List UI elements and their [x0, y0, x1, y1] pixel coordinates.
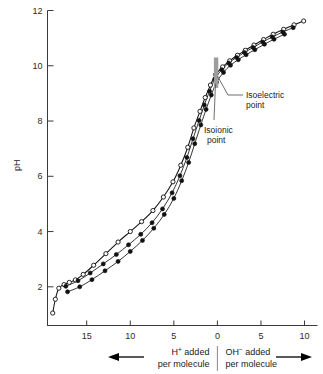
marker-open-circle [208, 83, 212, 87]
marker-open-circle [192, 126, 196, 130]
marker-filled-circle [114, 252, 118, 256]
marker-filled-circle [204, 107, 208, 111]
marker-filled-circle [172, 196, 176, 200]
isoionic-label-line2: point [207, 135, 226, 145]
oh-added-label-line1: OH− added [225, 346, 270, 357]
x-tick-label: 10 [125, 331, 135, 341]
marker-filled-circle [139, 232, 143, 236]
x-tick-label: 5 [258, 331, 263, 341]
marker-filled-circle [228, 63, 232, 67]
left-arrow-icon [108, 353, 119, 361]
y-tick-label: 12 [32, 6, 42, 16]
marker-open-circle [151, 208, 155, 212]
marker-open-circle [171, 180, 175, 184]
isoelectric-label-line2: point [246, 100, 265, 110]
marker-filled-circle [128, 249, 132, 253]
marker-filled-circle [262, 42, 266, 46]
marker-filled-circle [103, 269, 107, 273]
right-arrow-icon [301, 353, 312, 361]
marker-filled-circle [236, 58, 240, 62]
data-markers [51, 19, 306, 315]
marker-filled-circle [76, 279, 80, 283]
marker-filled-circle [244, 53, 248, 57]
marker-open-circle [57, 286, 61, 290]
marker-open-circle [139, 220, 143, 224]
x-tick-label: 0 [215, 331, 220, 341]
marker-open-circle [104, 252, 108, 256]
oh-ion-symbol: OH [225, 347, 239, 357]
curves [53, 21, 304, 313]
marker-open-circle [92, 263, 96, 267]
marker-open-circle [116, 240, 120, 244]
titration-curve-figure: 24681012pH151050510 IsoelectricpointIsoi… [0, 0, 323, 374]
y-tick-label: 4 [37, 227, 42, 237]
marker-filled-circle [64, 284, 68, 288]
x-tick-label: 15 [82, 331, 92, 341]
isoionic-isoelectric-bar [214, 57, 218, 87]
marker-filled-circle [162, 212, 166, 216]
oh-added-label-line2: per molecule [225, 359, 277, 369]
marker-filled-circle [161, 207, 165, 211]
h-added-label-line1: H+ added [172, 346, 210, 357]
curve-series-filled-circles-a [66, 28, 293, 287]
marker-open-circle [128, 229, 132, 233]
y-tick-label: 2 [37, 282, 42, 292]
marker-open-circle [67, 280, 71, 284]
marker-filled-circle [140, 238, 144, 242]
marker-filled-circle [88, 271, 92, 275]
h-added-label-line2: per molecule [158, 359, 210, 369]
marker-filled-circle [116, 259, 120, 263]
marker-open-circle [198, 109, 202, 113]
isoelectric-leader-line [218, 76, 243, 95]
y-tick-label: 8 [37, 116, 42, 126]
chart-svg: 24681012pH151050510 IsoelectricpointIsoi… [0, 0, 323, 374]
marker-filled-circle [208, 89, 212, 93]
annotations: IsoelectricpointIsoionicpoint [204, 57, 285, 145]
h-added-word: added [182, 347, 210, 357]
isoelectric-label-line1: Isoelectric [246, 90, 285, 100]
curve-series-open-circles [53, 21, 304, 313]
marker-open-circle [179, 163, 183, 167]
oh-added-word: added [243, 347, 271, 357]
marker-filled-circle [66, 290, 70, 294]
marker-filled-circle [202, 103, 206, 107]
y-tick-label: 10 [32, 61, 42, 71]
marker-filled-circle [282, 32, 286, 36]
marker-open-circle [81, 272, 85, 276]
marker-filled-circle [187, 160, 191, 164]
marker-open-circle [51, 311, 55, 315]
isoionic-label-line1: Isoionic [204, 125, 234, 135]
marker-filled-circle [253, 48, 257, 52]
marker-filled-circle [209, 93, 213, 97]
y-axis-title: pH [12, 159, 22, 171]
curve-series-filled-circles-b [68, 34, 285, 292]
marker-open-circle [186, 145, 190, 149]
marker-filled-circle [127, 243, 131, 247]
marker-filled-circle [90, 278, 94, 282]
marker-filled-circle [199, 123, 203, 127]
marker-open-circle [161, 195, 165, 199]
marker-filled-circle [180, 179, 184, 183]
marker-filled-circle [78, 285, 82, 289]
marker-filled-circle [291, 26, 295, 30]
marker-filled-circle [101, 262, 105, 266]
marker-filled-circle [178, 174, 182, 178]
marker-filled-circle [152, 226, 156, 230]
marker-filled-circle [185, 156, 189, 160]
y-tick-label: 6 [37, 171, 42, 181]
marker-filled-circle [150, 221, 154, 225]
x-tick-label: 5 [171, 331, 176, 341]
marker-filled-circle [197, 118, 201, 122]
marker-filled-circle [191, 137, 195, 141]
marker-filled-circle [222, 70, 226, 74]
marker-open-circle [203, 95, 207, 99]
axis-footer: H+ addedper moleculeOH− addedper molecul… [108, 346, 312, 371]
marker-filled-circle [272, 37, 276, 41]
marker-filled-circle [170, 191, 174, 195]
marker-open-circle [302, 19, 306, 23]
marker-open-circle [53, 297, 57, 301]
x-tick-label: 10 [300, 331, 310, 341]
marker-filled-circle [193, 142, 197, 146]
isoionic-leader-line [214, 84, 215, 120]
